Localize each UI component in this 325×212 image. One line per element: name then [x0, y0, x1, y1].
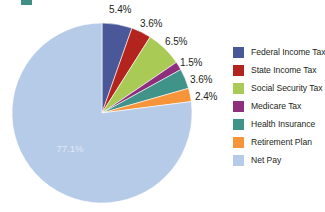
- callout-retirement-plan: 2.4%: [195, 91, 217, 102]
- callout-social-security-tax: 6.5%: [165, 36, 187, 47]
- legend-item-label: State Income Tax: [251, 65, 316, 75]
- legend-color-swatch-icon: [233, 155, 244, 166]
- callout-health-insurance: 3.6%: [190, 74, 212, 85]
- legend-item[interactable]: Medicare Tax: [233, 97, 323, 115]
- legend-item[interactable]: Net Pay: [233, 151, 323, 169]
- callout-federal-income-tax: 5.4%: [109, 4, 131, 15]
- legend-color-swatch-icon: [233, 101, 244, 112]
- legend-item[interactable]: Federal Income Tax: [233, 43, 323, 61]
- legend-item-label: Social Security Tax: [251, 83, 323, 93]
- pie-slice-group: [12, 23, 192, 203]
- legend-color-swatch-icon: [233, 119, 244, 130]
- legend-item[interactable]: Health Insurance: [233, 115, 323, 133]
- chart-legend: Federal Income TaxState Income TaxSocial…: [233, 43, 323, 169]
- pie-plot-area: 77.1%: [0, 0, 215, 212]
- legend-color-swatch-icon: [233, 47, 244, 58]
- legend-item-label: Federal Income Tax: [251, 47, 325, 57]
- legend-item-label: Retirement Plan: [251, 137, 312, 147]
- legend-item[interactable]: State Income Tax: [233, 61, 323, 79]
- legend-item-label: Medicare Tax: [251, 101, 301, 111]
- legend-color-swatch-icon: [233, 137, 244, 148]
- callout-medicare-tax: 1.5%: [180, 57, 202, 68]
- legend-item-label: Net Pay: [251, 155, 281, 165]
- legend-color-swatch-icon: [233, 83, 244, 94]
- legend-item-label: Health Insurance: [251, 119, 315, 129]
- pie-svg: 77.1%: [0, 0, 215, 212]
- legend-item[interactable]: Social Security Tax: [233, 79, 323, 97]
- callout-state-income-tax: 3.6%: [140, 18, 162, 29]
- legend-color-swatch-icon: [233, 65, 244, 76]
- slice-label-net-pay: 77.1%: [57, 143, 84, 154]
- legend-item[interactable]: Retirement Plan: [233, 133, 323, 151]
